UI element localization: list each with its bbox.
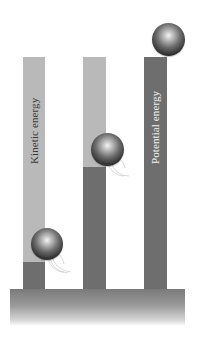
- potential-energy-label: Potential energy: [149, 91, 161, 164]
- kinetic-energy-label: Kinetic energy: [28, 98, 40, 164]
- left-ball-icon: [31, 228, 63, 260]
- right-ball-icon: [152, 23, 185, 56]
- ground-base: [10, 289, 185, 326]
- energy-diagram: Kinetic energy Potential energy: [0, 0, 202, 344]
- middle-ball-icon: [91, 133, 124, 166]
- middle-potential-bar: [83, 167, 106, 289]
